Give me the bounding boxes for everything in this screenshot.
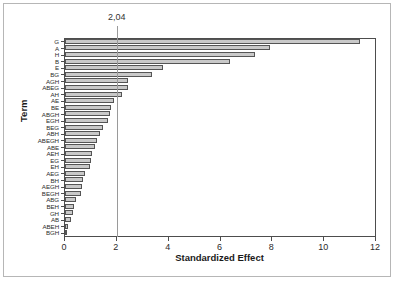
y-axis-tick	[61, 206, 64, 207]
bar	[65, 151, 92, 156]
y-axis-tick	[61, 61, 64, 62]
bar	[65, 85, 128, 90]
bar	[65, 39, 360, 44]
y-axis-tick	[61, 187, 64, 188]
bar	[65, 105, 111, 110]
y-axis-tick	[61, 74, 64, 75]
bar	[65, 210, 73, 215]
bar	[65, 111, 110, 116]
bar-fill	[65, 78, 128, 83]
bar-fill	[65, 52, 255, 57]
bar-fill	[65, 105, 111, 110]
bar	[65, 184, 82, 189]
bar-fill	[65, 210, 73, 215]
y-axis-tick	[61, 41, 64, 42]
y-axis-tick	[61, 48, 64, 49]
bar-fill	[65, 72, 152, 77]
y-axis-tick	[61, 160, 64, 161]
chart-frame: Term GAHBEBGAGHABEGAHAEBEABGHEGHBEGABHAB…	[3, 3, 391, 277]
bar	[65, 177, 83, 182]
x-axis-tick	[323, 237, 324, 241]
reference-line-label: 2,04	[108, 12, 126, 22]
bar	[65, 45, 270, 50]
bar-fill	[65, 158, 91, 163]
x-axis-tick-label: 6	[217, 242, 222, 252]
reference-line	[117, 26, 118, 237]
bar	[65, 224, 68, 229]
y-axis-tick	[61, 88, 64, 89]
bar-fill	[65, 197, 76, 202]
bar-fill	[65, 151, 92, 156]
bar	[65, 92, 122, 97]
bar-fill	[65, 125, 103, 130]
bar-fill	[65, 59, 230, 64]
x-axis-tick-label: 2	[113, 242, 118, 252]
bar	[65, 217, 71, 222]
bar	[65, 72, 152, 77]
bar-fill	[65, 98, 114, 103]
bar-fill	[65, 224, 68, 229]
x-axis-tick-label: 8	[269, 242, 274, 252]
y-axis-tick	[61, 147, 64, 148]
bar-fill	[65, 111, 110, 116]
y-axis-tick	[61, 68, 64, 69]
bar-fill	[65, 164, 90, 169]
bar-fill	[65, 92, 122, 97]
x-axis-tick	[168, 237, 169, 241]
bar-fill	[65, 118, 108, 123]
y-axis-tick	[61, 226, 64, 227]
y-axis-tick	[61, 180, 64, 181]
y-axis-tick	[61, 193, 64, 194]
bar	[65, 125, 103, 130]
x-axis-tick	[375, 237, 376, 241]
y-axis-label: BGH	[13, 229, 59, 236]
y-axis-tick	[61, 173, 64, 174]
bar	[65, 118, 108, 123]
bar-fill	[65, 144, 95, 149]
bar-fill	[65, 131, 100, 136]
bar	[65, 197, 76, 202]
y-axis-tick	[61, 154, 64, 155]
x-axis-tick	[64, 237, 65, 241]
x-axis-tick-label: 12	[370, 242, 380, 252]
bar-fill	[65, 45, 270, 50]
bar	[65, 164, 90, 169]
y-axis-tick	[61, 55, 64, 56]
x-axis-tick	[271, 237, 272, 241]
bar-fill	[65, 230, 67, 235]
y-axis-tick	[61, 220, 64, 221]
bar	[65, 98, 114, 103]
x-axis-tick	[116, 237, 117, 241]
bar	[65, 144, 95, 149]
y-axis-tick	[61, 140, 64, 141]
bar-fill	[65, 65, 163, 70]
y-axis-tick	[61, 81, 64, 82]
y-axis-tick	[61, 200, 64, 201]
y-axis-tick	[61, 101, 64, 102]
y-axis-tick	[61, 213, 64, 214]
bar-fill	[65, 177, 83, 182]
x-axis-tick-label: 0	[61, 242, 66, 252]
bar-fill	[65, 217, 71, 222]
bar	[65, 52, 255, 57]
bar	[65, 138, 97, 143]
y-axis-tick	[61, 127, 64, 128]
bar	[65, 78, 128, 83]
bar-fill	[65, 204, 74, 209]
y-axis-tick	[61, 121, 64, 122]
y-axis-tick	[61, 94, 64, 95]
bar-fill	[65, 39, 360, 44]
y-axis-tick	[61, 134, 64, 135]
bar-fill	[65, 171, 85, 176]
bar	[65, 65, 163, 70]
plot-right-border	[375, 38, 376, 236]
y-axis-tick	[61, 167, 64, 168]
bar-fill	[65, 191, 81, 196]
y-axis-tick	[61, 114, 64, 115]
y-axis-tick	[61, 107, 64, 108]
bar	[65, 171, 85, 176]
x-axis-tick	[220, 237, 221, 241]
bar-fill	[65, 184, 82, 189]
bar	[65, 191, 81, 196]
bar-fill	[65, 138, 97, 143]
